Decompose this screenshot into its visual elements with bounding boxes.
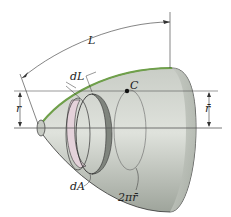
label-dL: dL [70, 70, 84, 83]
label-r: r [16, 102, 22, 115]
revolution-body [38, 68, 196, 212]
rbar-arrow-top [207, 92, 211, 97]
r-arrow-top [18, 92, 22, 97]
L-extension-left [20, 74, 38, 124]
centroid-point [125, 89, 129, 93]
L-arrow-right [163, 20, 170, 24]
label-circumference: 2πr̄ [117, 191, 139, 204]
surface-of-revolution-diagram: L dL C r r̄ dA 2πr̄ [0, 0, 231, 217]
label-C: C [130, 79, 139, 92]
label-rbar: r̄ [205, 102, 211, 115]
rbar-arrow-bottom [207, 122, 211, 127]
dL-arrow-line-right [86, 72, 96, 76]
label-dA: dA [70, 180, 85, 193]
r-arrow-bottom [18, 122, 22, 127]
label-L: L [87, 34, 95, 47]
